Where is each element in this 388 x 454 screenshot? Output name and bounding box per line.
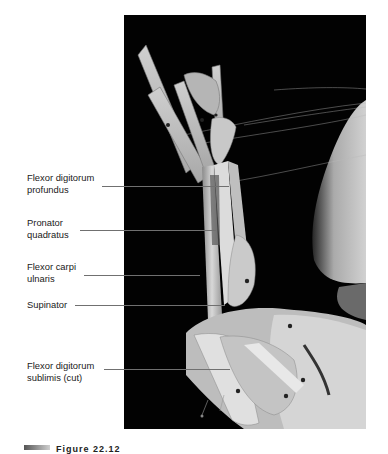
- label-flexor-digitorum-sublimis: Flexor digitorum sublimis (cut): [27, 360, 94, 384]
- dissection-photo: [124, 15, 366, 429]
- forelimb-illustration: [124, 15, 366, 429]
- leader-line-supinator: [75, 305, 225, 306]
- leader-line-flexor-digitorum-profundus: [102, 186, 229, 187]
- caption-text: Figure 22.12: [56, 444, 121, 454]
- leader-line-flexor-digitorum-sublimis: [104, 369, 230, 370]
- leader-line-flexor-carpi-ulnaris: [84, 275, 200, 276]
- label-supinator: Supinator: [27, 299, 67, 311]
- label-flexor-digitorum-profundus: Flexor digitorum profundus: [27, 172, 94, 196]
- figure-caption: Figure 22.12: [24, 442, 121, 452]
- label-flexor-carpi-ulnaris: Flexor carpi ulnaris: [27, 261, 76, 285]
- leader-line-pronator-quadratus: [80, 230, 216, 231]
- caption-bar: [24, 445, 50, 450]
- label-pronator-quadratus: Pronator quadratus: [27, 217, 69, 241]
